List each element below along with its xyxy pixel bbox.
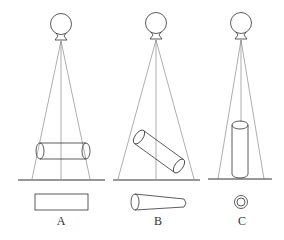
- vertical-cylinder: [232, 121, 248, 178]
- label-a: A: [51, 214, 71, 229]
- projection-tapered: [131, 194, 186, 210]
- label-b: B: [148, 214, 168, 229]
- xray-source-icon: [51, 14, 72, 41]
- tilted-cylinder: [131, 128, 187, 175]
- xray-source-icon: [146, 13, 167, 40]
- xray-source-icon: [231, 13, 252, 40]
- projection-circles: [235, 196, 248, 209]
- beam-rays: [218, 40, 264, 179]
- horizontal-cylinder: [36, 143, 90, 159]
- label-c: C: [232, 214, 252, 229]
- panel-b: [113, 13, 200, 211]
- beam-rays: [118, 40, 194, 179]
- projection-diagram: [0, 0, 284, 240]
- beam-rays: [32, 41, 90, 179]
- projection-rectangle: [35, 194, 88, 210]
- panel-c: [208, 13, 272, 209]
- panel-a: [18, 14, 105, 211]
